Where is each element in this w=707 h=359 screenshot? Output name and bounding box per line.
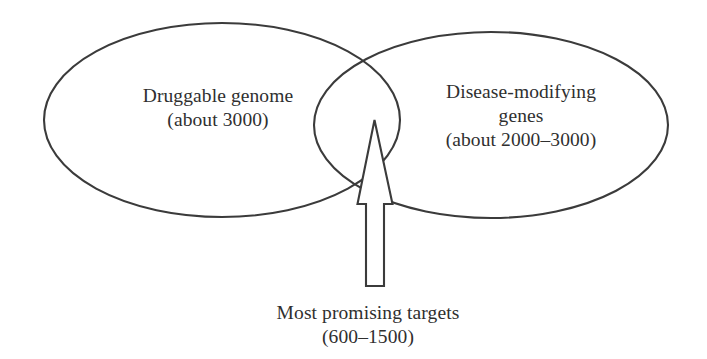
right-set-count: (about 2000–3000)	[396, 128, 646, 152]
right-set-label: Disease-modifying genes (about 2000–3000…	[396, 80, 646, 151]
intersection-label: Most promising targets (600–1500)	[203, 301, 533, 349]
venn-diagram-figure: Druggable genome (about 3000) Disease-mo…	[0, 0, 707, 359]
left-set-label: Druggable genome (about 3000)	[68, 84, 368, 132]
left-set-name: Druggable genome	[68, 84, 368, 108]
intersection-name: Most promising targets	[203, 301, 533, 325]
up-arrow-outline-icon	[358, 120, 393, 286]
right-set-name-line1: Disease-modifying	[396, 80, 646, 104]
right-set-name-line2: genes	[396, 104, 646, 128]
left-set-count: (about 3000)	[68, 108, 368, 132]
intersection-count: (600–1500)	[203, 325, 533, 349]
